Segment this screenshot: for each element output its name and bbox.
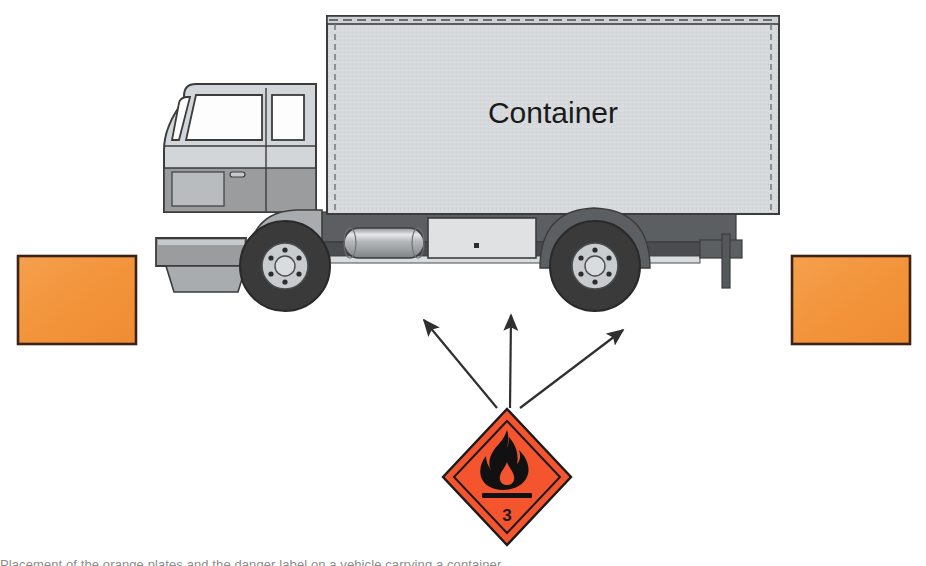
toolbox-latch: [474, 243, 479, 248]
rear-hub-center: [585, 256, 605, 276]
placard-class-number: 3: [502, 506, 511, 525]
cab-grille-panel: [172, 172, 224, 206]
front-wheel: [240, 221, 330, 311]
container-body: Container: [327, 16, 779, 214]
left-orange-plate: [18, 256, 136, 344]
toolbox: [428, 218, 536, 258]
front-bumper-highlight: [158, 240, 244, 245]
right-orange-plate-rect: [792, 256, 910, 344]
rear-underrun-bar: [722, 234, 730, 288]
figure-canvas: Container: [0, 0, 926, 566]
air-dam: [166, 266, 246, 292]
door-handle: [230, 172, 245, 177]
flame-baseline: [482, 493, 532, 498]
figure-caption: Placement of the orange plates and the d…: [0, 557, 926, 566]
truck-placard-diagram: Container: [0, 0, 926, 566]
quarter-window: [272, 95, 304, 140]
chassis-rear-step: [700, 240, 742, 258]
front-hub-center: [275, 256, 295, 276]
arrow-to-top-center: [510, 315, 511, 408]
rear-wheel: [550, 221, 640, 311]
right-orange-plate: [792, 256, 910, 344]
rear-underrun-post: [722, 234, 730, 288]
toolbox-body: [428, 218, 536, 258]
side-window: [186, 95, 262, 140]
left-orange-plate-rect: [18, 256, 136, 344]
container-label: Container: [488, 96, 618, 129]
fuel-tank: [344, 228, 424, 258]
